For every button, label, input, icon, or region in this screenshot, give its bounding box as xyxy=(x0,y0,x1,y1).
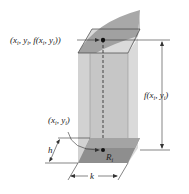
k-ext-right xyxy=(118,163,128,180)
h-label: h xyxy=(48,145,53,155)
prism-diagram: (xi, yi, f(xi, yi)) f(xi, yi) (xi, yi) R… xyxy=(0,0,189,194)
k-arrowhead-right xyxy=(113,174,118,178)
k-label: k xyxy=(90,171,95,181)
h-arrowhead-top xyxy=(56,139,60,144)
k-arrowhead-left xyxy=(70,174,75,178)
top-point-label: (xi, yi, f(xi, yi)) xyxy=(10,35,61,46)
top-point-dot xyxy=(101,38,105,42)
k-ext-left xyxy=(68,163,78,180)
base-region-top-strip xyxy=(85,138,140,148)
height-arrowhead-bottom xyxy=(160,144,164,149)
h-arrowhead-bottom xyxy=(49,157,53,162)
base-point-dot xyxy=(101,148,105,152)
height-arrowhead-top xyxy=(160,41,164,46)
base-point-label: (xi, yi) xyxy=(48,115,70,126)
height-label: f(xi, yi) xyxy=(144,90,168,101)
